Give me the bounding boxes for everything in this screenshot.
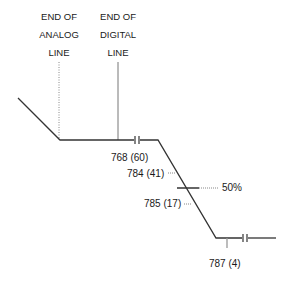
digital-label-line-2: DIGITAL <box>83 26 153 44</box>
marker-787-label: 787 (4) <box>209 258 241 269</box>
digital-label-line-1: END OF <box>83 8 153 26</box>
threshold-50-label: 50% <box>222 182 242 193</box>
waveform-upper-segment <box>18 98 134 140</box>
marker-785-label: 785 (17) <box>144 198 181 209</box>
digital-end-label: END OF DIGITAL LINE <box>83 8 153 62</box>
marker-784-label: 784 (41) <box>127 168 164 179</box>
marker-768-label: 768 (60) <box>111 152 148 163</box>
digital-label-line-3: LINE <box>83 44 153 62</box>
